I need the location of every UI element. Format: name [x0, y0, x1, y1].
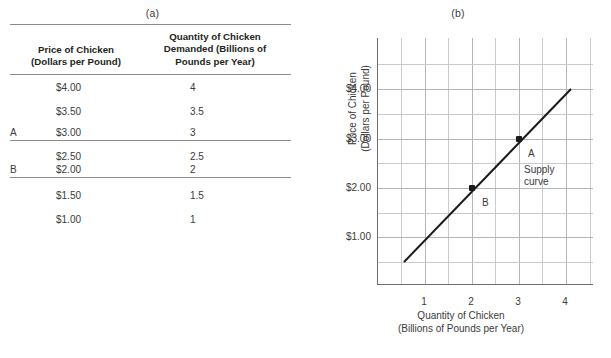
column-header-price: Price of Chicken (Dollars per Pound) — [12, 44, 140, 69]
plot-area: A B Supply curve — [377, 38, 593, 285]
table-row: $4.00 — [56, 82, 126, 93]
table-row-marker-b: B — [10, 164, 24, 175]
table-row: $3.50 — [56, 106, 126, 117]
y-axis-title-line2: (Dollars per Pound) — [359, 49, 372, 169]
table-row: $2.50 — [56, 151, 126, 162]
x-axis-title-line1: Quantity of Chicken — [341, 310, 581, 323]
supply-curve-line — [378, 38, 594, 285]
x-axis-tick-label: 1 — [414, 296, 434, 307]
x-axis-tick-label: 2 — [461, 296, 481, 307]
column-header-price-line2: (Dollars per Pound) — [12, 56, 140, 68]
table-row: 2.5 — [190, 151, 230, 162]
table-row: 3.5 — [190, 106, 230, 117]
column-header-quantity-line3: Pounds per Year) — [140, 56, 290, 68]
panel-a-table: (a) Price of Chicken (Dollars per Pound)… — [0, 0, 305, 358]
table-row: 3 — [190, 127, 230, 138]
table-row: 2 — [190, 164, 230, 175]
y-axis-title-line1: Price of Chicken — [347, 49, 360, 169]
table-rule-top — [10, 24, 291, 25]
x-axis-tick-label: 4 — [555, 296, 575, 307]
data-point-a-label: A — [528, 148, 535, 159]
x-axis-title: Quantity of Chicken (Billions of Pounds … — [341, 310, 581, 335]
x-axis-tick-label: 3 — [508, 296, 528, 307]
table-row: 1 — [190, 214, 230, 225]
supply-curve-label-line1: Supply — [524, 164, 574, 176]
supply-curve-label: Supply curve — [524, 164, 574, 188]
column-header-price-line1: Price of Chicken — [12, 44, 140, 56]
table-row: $2.00 — [56, 164, 126, 175]
supply-curve-label-line2: curve — [524, 176, 574, 188]
panel-a-caption: (a) — [0, 7, 305, 19]
data-point-b-label: B — [482, 197, 489, 208]
table-row: 4 — [190, 82, 230, 93]
table-rule-header — [10, 74, 291, 75]
x-axis-title-line2: (Billions of Pounds per Year) — [341, 323, 581, 336]
y-axis-title: Price of Chicken (Dollars per Pound) — [347, 49, 372, 169]
table-row-marker-a: A — [10, 127, 24, 138]
table-rule-after-row-b — [10, 177, 291, 178]
panel-b-chart: (b) A B Supply curve — [305, 0, 611, 358]
data-point-b — [469, 185, 475, 191]
data-point-a — [516, 136, 522, 142]
y-axis-tick-label: $2.00 — [325, 182, 371, 193]
column-header-quantity-line1: Quantity of Chicken — [140, 31, 290, 43]
panel-b-caption: (b) — [305, 7, 611, 19]
column-header-quantity: Quantity of Chicken Demanded (Billions o… — [140, 31, 290, 68]
y-axis-tick-label: $1.00 — [325, 231, 371, 242]
column-header-quantity-line2: Demanded (Billions of — [140, 43, 290, 55]
table-row: $1.50 — [56, 190, 126, 201]
table-row: 1.5 — [190, 190, 230, 201]
table-rule-after-row-a — [10, 140, 291, 141]
table-row: $1.00 — [56, 214, 126, 225]
table-row: $3.00 — [56, 127, 126, 138]
